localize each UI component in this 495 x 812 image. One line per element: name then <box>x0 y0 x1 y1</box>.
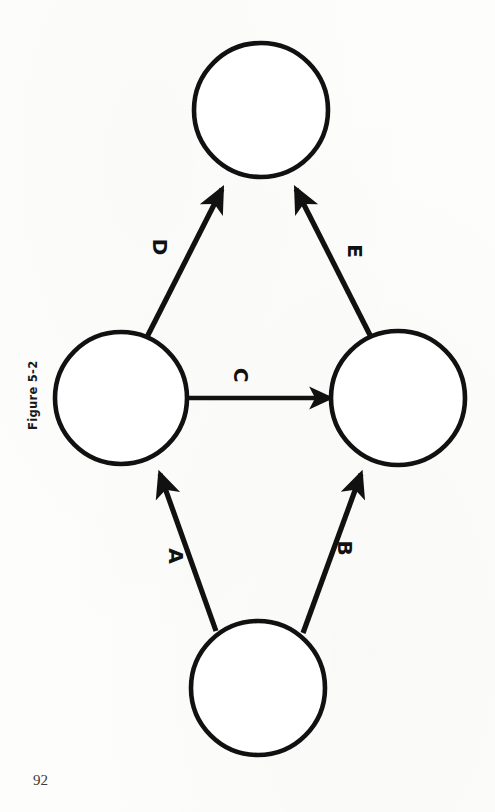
figure-graph <box>0 0 495 812</box>
page-number: 92 <box>33 772 48 789</box>
edge-label-d: D <box>147 234 173 260</box>
edge-d-line <box>147 189 222 337</box>
figure-caption: Figure 5-2 <box>26 361 40 430</box>
node-right[interactable] <box>331 331 465 465</box>
edge-label-a: A <box>163 543 189 569</box>
node-bottom[interactable] <box>191 621 325 755</box>
node-left[interactable] <box>55 332 187 464</box>
edge-label-c: C <box>228 362 254 388</box>
node-top[interactable] <box>194 43 328 177</box>
edge-label-e: E <box>342 238 368 264</box>
edge-d <box>147 189 222 337</box>
book-page: A B C D E Figure 5-2 92 <box>0 0 495 812</box>
edge-label-b: B <box>332 535 358 561</box>
